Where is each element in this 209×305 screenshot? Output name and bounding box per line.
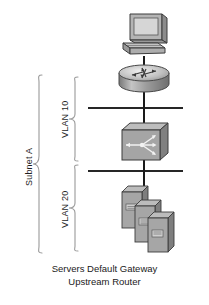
caption-line-1: Servers Default Gateway [0, 262, 209, 275]
caption-line-2: Upstream Router [0, 275, 209, 288]
brace-label-vlan-10: VLAN 10 [60, 101, 70, 138]
workstation-icon [118, 12, 170, 58]
trunk-line-vlan20 [88, 170, 183, 172]
diagram-caption: Servers Default Gateway Upstream Router [0, 262, 209, 288]
network-diagram: VLAN 10 VLAN 20 Subnet A Servers Default… [0, 0, 209, 305]
switch-icon [118, 120, 172, 164]
router-icon [116, 62, 172, 96]
server-stack-icon [120, 182, 178, 254]
brace-label-subnet-a: Subnet A [24, 148, 34, 186]
brace-label-vlan-20: VLAN 20 [60, 191, 70, 228]
trunk-line-vlan10 [88, 107, 183, 109]
